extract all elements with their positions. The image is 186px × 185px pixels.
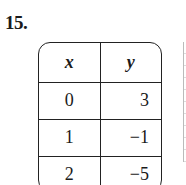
xy-table: x y 0 3 1 −1 2 −5 xyxy=(38,42,162,185)
partial-graph-grid xyxy=(183,42,186,162)
cell-y: 3 xyxy=(100,82,161,119)
cell-x: 2 xyxy=(39,156,100,185)
header-y: y xyxy=(100,43,161,82)
table-header-row: x y xyxy=(39,43,161,82)
cell-x: 1 xyxy=(39,119,100,156)
problem-number: 15. xyxy=(5,12,27,34)
table-row: 1 −1 xyxy=(39,119,161,156)
cell-x: 0 xyxy=(39,82,100,119)
table-row: 2 −5 xyxy=(39,156,161,185)
cell-y: −1 xyxy=(100,119,161,156)
cell-y: −5 xyxy=(100,156,161,185)
header-x: x xyxy=(39,43,100,82)
table-row: 0 3 xyxy=(39,82,161,119)
